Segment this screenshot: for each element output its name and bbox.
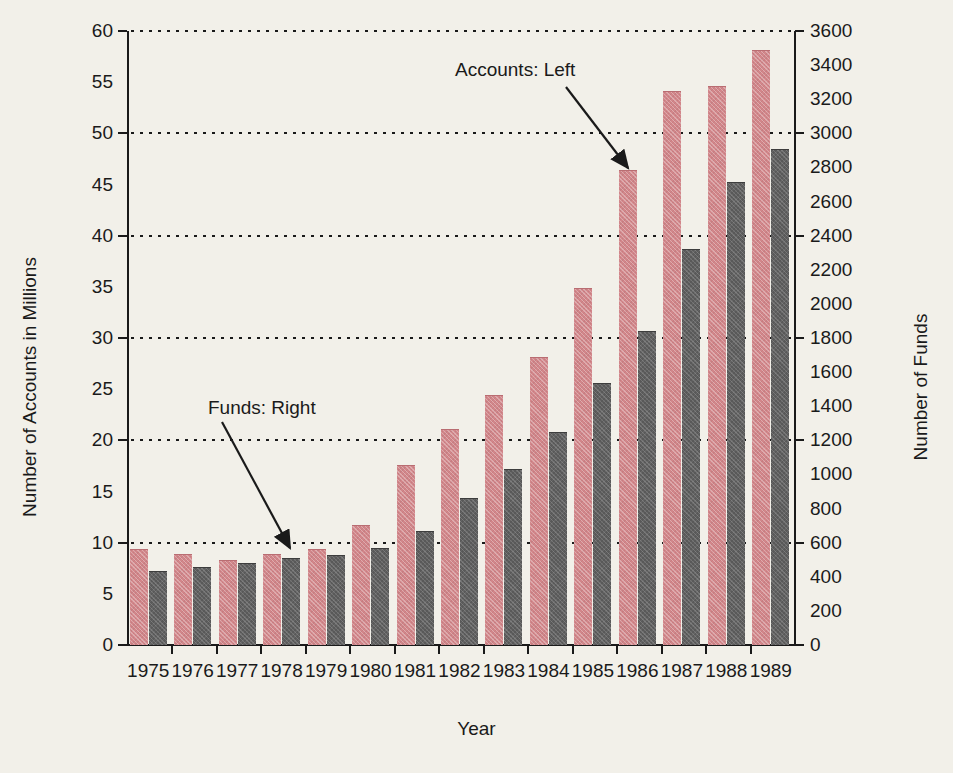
annotation-funds-arrow [222, 422, 290, 548]
annotation-arrows [0, 0, 953, 773]
annotation-accounts-arrow [566, 87, 628, 168]
chart-figure: Number of Accounts in Millions Number of… [0, 0, 953, 773]
